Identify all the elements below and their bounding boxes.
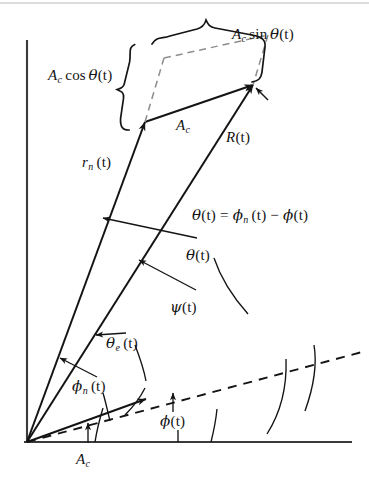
label-theta-e-of-t: θe(t): [106, 336, 138, 353]
component-parallelogram: [145, 35, 268, 122]
label-psi-of-t: ψ(t): [170, 300, 197, 315]
phi-n-arc: [95, 408, 103, 442]
psi-leader: [139, 260, 196, 290]
psi-arc: [267, 359, 286, 434]
phi-arc: [211, 409, 217, 442]
label-phi-n-of-t: ϕn(t): [72, 379, 106, 396]
sin-component-pointer: [256, 88, 268, 100]
carrier-vector-top: [145, 85, 253, 122]
cos-brace: [115, 45, 139, 131]
carrier-baseline-vector: [27, 399, 146, 442]
theta-arc: [305, 345, 315, 411]
theta-label-leader: [214, 258, 248, 314]
label-ac-cos-theta: Accosθ(t): [48, 68, 112, 85]
resultant-vector: [27, 85, 253, 442]
label-ac-lower: Ac: [76, 452, 91, 469]
label-theta-of-t: θ(t): [186, 248, 210, 263]
phi-n-label-leader: [103, 393, 110, 421]
label-rn-of-t: rn(t): [82, 155, 111, 172]
theta-equation-leader: [103, 218, 197, 238]
label-r-of-t: R(t): [226, 130, 250, 145]
vectors-group: [27, 85, 253, 442]
label-ac-upper: Ac: [176, 118, 191, 135]
label-ac-sin-theta: Acsinθ(t): [232, 27, 294, 44]
phasor-diagram-figure: Acsinθ(t) Accosθ(t) Ac R(t) rn(t) θ(t)=ϕ…: [0, 0, 369, 495]
label-theta-equation: θ(t)=ϕn(t)−ϕ(t): [192, 208, 308, 225]
label-phi-of-t: ϕ(t): [160, 414, 185, 429]
phase-reference-dashed-line: [27, 352, 362, 442]
